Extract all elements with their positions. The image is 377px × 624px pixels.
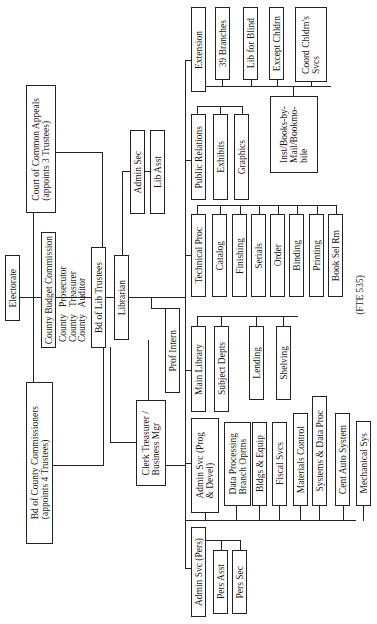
node-technical-proc: Technical Proc — [191, 214, 206, 297]
node-shelving: Shelving — [276, 326, 291, 400]
node-data-processing: Data Processing Branch Oprtns — [224, 422, 251, 506]
pers-bus — [206, 540, 240, 541]
node-printing: Printing — [309, 214, 324, 297]
ml-c3 — [256, 316, 257, 326]
line-clerk-librarian — [148, 340, 149, 401]
line-prof-intern — [151, 297, 152, 308]
node-binding: Binding — [289, 214, 304, 297]
node-mechanical-sys: Mechanical Sys — [356, 421, 371, 506]
asp-c1 — [205, 512, 206, 521]
tp-bus — [197, 205, 337, 206]
node-main-library: Main Library — [191, 326, 206, 412]
node-bldgs-equip: Bldgs & Equip — [252, 422, 267, 506]
tp-c6 — [297, 205, 298, 214]
node-pers-sec: Pers Sec — [232, 550, 247, 614]
node-electorate: Electorate — [5, 255, 20, 321]
node-lib-for-blind: Lib for Blind — [243, 7, 258, 80]
node-county-officers: County Prosecutor County Treasurer Count… — [58, 242, 88, 342]
node-librarian: Librarian — [114, 255, 129, 340]
pers-c1 — [221, 540, 222, 550]
line-to-clerk — [110, 442, 137, 443]
asp-c4 — [279, 505, 280, 521]
pers-c2 — [240, 540, 241, 550]
ml-c1 — [197, 316, 198, 326]
tp-c8 — [336, 205, 337, 214]
node-inst-books-by-mail: Inst/Books-by- Mail/Bookmo- bile — [270, 96, 318, 173]
node-admin-sec: Admin Sec — [130, 130, 145, 214]
pr-c1 — [197, 106, 198, 114]
ml-c2 — [221, 316, 222, 326]
node-catalog: Catalog — [212, 214, 227, 297]
line-clerk-spine — [166, 465, 186, 466]
asp-c5 — [300, 505, 301, 521]
node-cent-auto-system: Cent Auto System — [335, 413, 350, 506]
asp-c2 — [236, 505, 237, 521]
tp-c4 — [259, 205, 260, 214]
line-commissioners-to-trustees — [53, 465, 104, 466]
asp-bus — [185, 520, 356, 521]
line-commissioners-trustees-vert — [103, 347, 104, 466]
ext-c5 — [293, 86, 294, 96]
asp-c3 — [259, 505, 260, 521]
asp-c7 — [343, 505, 344, 521]
pr-c2 — [220, 106, 221, 114]
line-prof-intern-h — [151, 308, 166, 309]
node-finishing: Finishing — [232, 214, 247, 297]
node-lending: Lending — [249, 326, 264, 400]
node-fiscal-svcs: Fiscal Svcs — [272, 422, 287, 506]
node-public-relations: Public Relations — [191, 114, 206, 200]
main-spine — [185, 60, 186, 569]
node-pers-asst: Pers Asst — [213, 550, 228, 614]
tp-c1 — [197, 205, 198, 214]
node-subject-depts: Subject Depts — [214, 326, 229, 412]
node-county-budget-commission: County Budget Commission — [41, 232, 56, 348]
fte-footnote: (FTE 535) — [355, 275, 365, 319]
node-clerk-treasurer: Clerk Treasurer / Business Mgr — [136, 400, 166, 486]
line-court-commissioners — [33, 213, 34, 383]
line-court-to-trustees — [56, 152, 103, 153]
node-prof-intern: Prof Intern — [165, 308, 180, 393]
ext-c3 — [277, 80, 278, 87]
tp-c7 — [317, 205, 318, 214]
node-materials-control: Materials Control — [293, 413, 308, 506]
node-book-sel-rm: Book Sel Rm — [328, 214, 343, 297]
node-lib-asst: Lib Asst — [150, 130, 165, 214]
node-admin-svc-pers: Admin Svc (Pers) — [191, 527, 206, 617]
ml-c4 — [283, 316, 284, 326]
node-39-branches: 39 Branches — [215, 7, 230, 80]
ext-c1 — [222, 80, 223, 87]
line-librarian-adminsec — [122, 171, 123, 256]
pr-c3 — [242, 106, 243, 114]
node-admin-svc-prog: Admin Svc (Prog & Devel) — [191, 418, 219, 513]
tp-c2 — [220, 205, 221, 214]
tp-c5 — [278, 205, 279, 214]
node-court-of-common-appeals: Court of Common Appeals (appoints 3 Trus… — [26, 85, 56, 213]
node-exhibits: Exhibits — [213, 114, 228, 200]
line-librarian-spine — [129, 297, 186, 298]
node-serials: Serials — [251, 214, 266, 297]
asp-c6 — [319, 505, 320, 521]
node-bd-of-lib-trustees: Bd of Lib Trustees — [91, 247, 106, 348]
node-coord-chldrns-svcs: Coord Chldrn's Svcs — [295, 7, 327, 82]
tp-c3 — [240, 205, 241, 214]
asp-c8 — [363, 505, 364, 521]
ext-c2 — [251, 80, 252, 87]
node-bd-of-county-commissioners: Bd of County Commissioners (appoints 4 T… — [26, 382, 53, 544]
node-order: Order — [270, 214, 285, 297]
node-except-chldrn: Except Chldrn — [269, 7, 284, 80]
node-extension: Extension — [191, 7, 206, 92]
node-systems-data-proc: Systems & Data Proc — [312, 396, 327, 506]
node-graphics: Graphics — [234, 114, 249, 200]
line-trustees-clerk — [110, 347, 111, 443]
line-court-trustees-vert — [102, 152, 103, 248]
